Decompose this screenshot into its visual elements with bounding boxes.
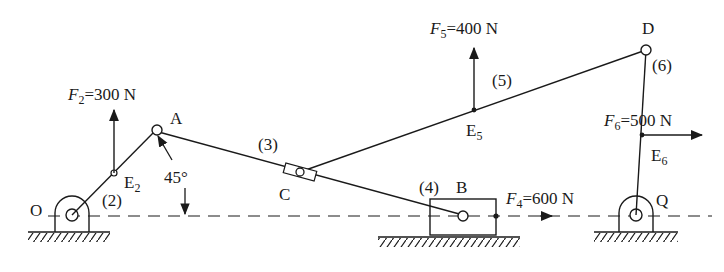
label-B: B [456,178,467,197]
ground-support-B [378,237,520,247]
label-E5: E5 [466,121,482,143]
label-link-4: (4) [419,178,439,197]
label-A: A [170,109,183,128]
label-Q: Q [656,191,668,210]
label-link-5: (5) [492,71,512,90]
label-link-6: (6) [652,56,672,75]
joint-D [641,45,651,55]
label-angle: 45° [164,168,188,187]
link-6 [636,50,646,215]
label-E6: E6 [651,146,667,168]
label-link-3: (3) [258,135,278,154]
label-F5: F5=400 N [429,19,498,41]
label-F4: F4=600 N [505,189,574,211]
label-F2: F2=300 N [67,85,136,107]
linkage-diagram: O A B C D Q E2 E5 E6 (2) (3) (4) (5) (6)… [0,0,724,272]
label-F6: F6=500 N [603,111,672,133]
joint-A [152,125,162,135]
label-D: D [642,19,654,38]
label-O: O [30,201,42,220]
label-C: C [279,185,290,204]
angle-arrow-upper [158,136,172,160]
label-E2: E2 [124,173,140,195]
label-link-2: (2) [102,191,122,210]
